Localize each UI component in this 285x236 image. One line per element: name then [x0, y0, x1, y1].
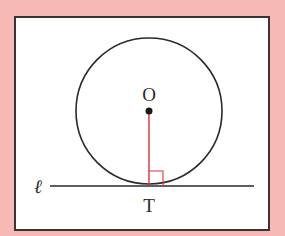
center-point-o: [146, 108, 153, 115]
diagram-canvas: O T ℓ: [0, 0, 285, 236]
label-line-l: ℓ: [34, 176, 42, 197]
label-o: O: [142, 84, 156, 105]
label-t: T: [143, 195, 155, 216]
